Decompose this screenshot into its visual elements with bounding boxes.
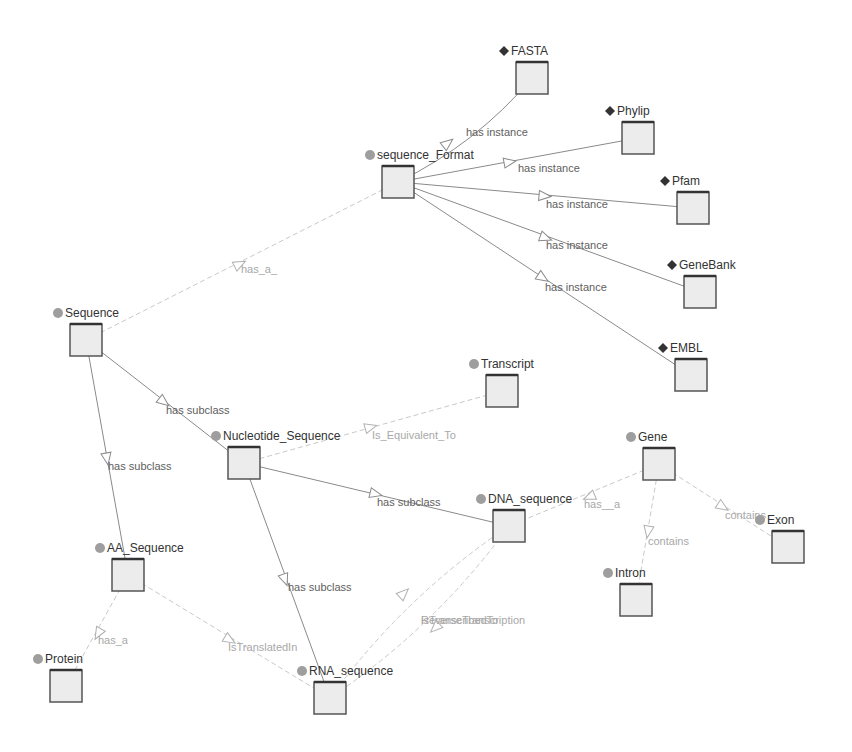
edge-label: has instance xyxy=(546,239,608,251)
edge-label: has instance xyxy=(518,162,580,174)
node-box[interactable] xyxy=(772,531,804,563)
edge-label: has_a_ xyxy=(241,263,278,275)
node-box[interactable] xyxy=(50,670,82,702)
node-rna_sequence[interactable]: RNA_sequence xyxy=(297,664,393,714)
instance-diamond-icon xyxy=(660,176,670,186)
class-circle-icon xyxy=(755,515,765,525)
node-pfam[interactable]: Pfam xyxy=(660,174,709,224)
instance-diamond-icon xyxy=(499,46,509,56)
edge-label: IsTranslatedIn xyxy=(228,641,297,653)
class-circle-icon xyxy=(365,150,375,160)
node-protein[interactable]: Protein xyxy=(33,652,83,702)
nodes-layer: FASTAsequence_FormatPhylipPfamGeneBankEM… xyxy=(33,44,804,714)
edge-aa_sequence-rna_sequence[interactable]: IsTranslatedIn xyxy=(128,575,330,698)
node-box[interactable] xyxy=(643,448,675,480)
class-circle-icon xyxy=(95,543,105,553)
node-label: Protein xyxy=(45,652,83,666)
node-dna_sequence[interactable]: DNA_sequence xyxy=(476,492,572,542)
edge-nucleotide_sequence-rna_sequence[interactable]: has subclass xyxy=(244,463,352,698)
node-box[interactable] xyxy=(382,166,414,198)
node-box[interactable] xyxy=(70,324,102,356)
edge-label: has subclass xyxy=(288,581,352,593)
edge-nucleotide_sequence-transcript[interactable]: Is_Equivalent_To xyxy=(244,391,502,463)
node-label: AA_Sequence xyxy=(107,541,184,555)
edge-label: has instance xyxy=(545,281,607,293)
node-label: Phylip xyxy=(617,104,650,118)
node-label: Pfam xyxy=(672,174,700,188)
edge-label: has subclass xyxy=(108,460,172,472)
node-label: GeneBank xyxy=(679,258,737,272)
instance-diamond-icon xyxy=(605,106,615,116)
node-label: Intron xyxy=(615,566,646,580)
node-aa_sequence[interactable]: AA_Sequence xyxy=(95,541,184,591)
edge-label: has subclass xyxy=(166,404,230,416)
node-box[interactable] xyxy=(486,375,518,407)
node-label: Sequence xyxy=(65,306,119,320)
node-label: Nucleotide_Sequence xyxy=(223,429,341,443)
node-intron[interactable]: Intron xyxy=(603,566,652,616)
node-sequence[interactable]: Sequence xyxy=(53,306,119,356)
edge-label: has instance xyxy=(466,126,528,138)
edge-label: ReverseTranscription xyxy=(421,614,525,626)
node-box[interactable] xyxy=(684,276,716,308)
node-transcript[interactable]: Transcript xyxy=(469,357,535,407)
arrowhead-icon xyxy=(503,156,517,168)
class-circle-icon xyxy=(603,568,613,578)
edge-label: has subclass xyxy=(377,496,441,508)
edge-sequence-sequence_format[interactable]: has_a_ xyxy=(86,182,398,340)
edge-sequence_format-embl[interactable]: has instance xyxy=(398,182,691,375)
edge-label: Is_Equivalent_To xyxy=(372,429,456,441)
node-label: Gene xyxy=(638,430,668,444)
class-circle-icon xyxy=(53,308,63,318)
node-fasta[interactable]: FASTA xyxy=(499,44,548,94)
class-circle-icon xyxy=(211,431,221,441)
class-circle-icon xyxy=(33,654,43,664)
class-circle-icon xyxy=(297,666,307,676)
ontology-graph-canvas[interactable]: has instancehas instancehas instancehas … xyxy=(0,0,852,752)
edge-sequence-nucleotide_sequence[interactable]: has subclass xyxy=(86,340,244,463)
class-circle-icon xyxy=(469,359,479,369)
edge-nucleotide_sequence-dna_sequence[interactable]: has subclass xyxy=(244,463,509,526)
node-box[interactable] xyxy=(314,682,346,714)
edge-sequence_format-fasta[interactable]: has instance xyxy=(398,78,532,182)
node-label: RNA_sequence xyxy=(309,664,393,678)
node-label: EMBL xyxy=(670,341,703,355)
node-embl[interactable]: EMBL xyxy=(658,341,707,391)
edge-label: has_a xyxy=(98,634,129,646)
node-sequence_format[interactable]: sequence_Format xyxy=(365,148,474,198)
edge-label: contains xyxy=(648,535,689,547)
edge-line xyxy=(86,182,398,340)
instance-diamond-icon xyxy=(667,260,677,270)
node-label: DNA_sequence xyxy=(488,492,572,506)
class-circle-icon xyxy=(476,494,486,504)
node-label: Exon xyxy=(767,513,794,527)
node-box[interactable] xyxy=(675,359,707,391)
instance-diamond-icon xyxy=(658,343,668,353)
node-box[interactable] xyxy=(516,62,548,94)
node-box[interactable] xyxy=(620,584,652,616)
edge-label: has instance xyxy=(546,198,608,210)
edge-sequence_format-pfam[interactable]: has instance xyxy=(398,182,693,210)
arrowhead-icon xyxy=(396,585,412,601)
edge-sequence-aa_sequence[interactable]: has subclass xyxy=(86,340,172,575)
edge-label: has__a xyxy=(584,498,621,510)
node-label: Transcript xyxy=(481,357,535,371)
node-box[interactable] xyxy=(493,510,525,542)
node-label: sequence_Format xyxy=(377,148,474,162)
class-circle-icon xyxy=(626,432,636,442)
node-phylip[interactable]: Phylip xyxy=(605,104,654,154)
node-box[interactable] xyxy=(622,122,654,154)
node-box[interactable] xyxy=(677,192,709,224)
node-box[interactable] xyxy=(112,559,144,591)
node-genebank[interactable]: GeneBank xyxy=(667,258,737,308)
node-label: FASTA xyxy=(511,44,548,58)
node-box[interactable] xyxy=(228,447,260,479)
node-exon[interactable]: Exon xyxy=(755,513,804,563)
node-gene[interactable]: Gene xyxy=(626,430,675,480)
